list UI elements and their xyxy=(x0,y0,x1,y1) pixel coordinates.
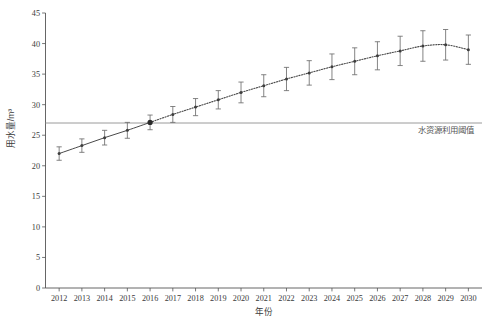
data-point xyxy=(80,144,83,147)
y-tick-label: 25 xyxy=(32,131,40,140)
axes-layer: 0510152025303540452012201320142015201620… xyxy=(32,9,482,303)
y-tick-label: 15 xyxy=(32,192,40,201)
threshold-annotation-label: 水资源利用阈值 xyxy=(418,125,475,135)
x-tick-label: 2024 xyxy=(324,294,340,303)
data-point xyxy=(330,65,333,68)
x-tick-label: 2021 xyxy=(256,294,272,303)
data-point xyxy=(240,91,243,94)
x-tick-label: 2018 xyxy=(187,294,203,303)
y-tick-label: 0 xyxy=(36,284,40,293)
water-usage-forecast-chart: 0510152025303540452012201320142015201620… xyxy=(0,0,491,334)
x-tick-label: 2019 xyxy=(210,294,226,303)
markers-layer xyxy=(58,43,470,155)
y-tick-label: 5 xyxy=(36,253,40,262)
axis-spines xyxy=(46,13,483,288)
data-point xyxy=(171,113,174,116)
y-tick-label: 20 xyxy=(32,162,40,171)
data-point xyxy=(467,48,470,51)
x-tick-label: 2012 xyxy=(51,294,67,303)
data-point xyxy=(308,71,311,74)
y-tick-label: 40 xyxy=(32,40,40,49)
data-point xyxy=(376,54,379,57)
x-tick-label: 2027 xyxy=(392,294,408,303)
series-layer xyxy=(59,45,468,154)
data-point xyxy=(217,98,220,101)
x-tick-label: 2022 xyxy=(278,294,294,303)
x-tick-label: 2025 xyxy=(347,294,363,303)
data-point xyxy=(444,43,447,46)
x-tick-label: 2028 xyxy=(415,294,431,303)
data-point xyxy=(421,45,424,48)
y-tick-label: 35 xyxy=(32,70,40,79)
figure-container: 0510152025303540452012201320142015201620… xyxy=(0,0,491,334)
data-point xyxy=(103,136,106,139)
labels-layer: 水资源利用阈值年份用水量/m³ xyxy=(5,109,475,317)
data-point xyxy=(58,152,61,155)
x-tick-label: 2030 xyxy=(460,294,476,303)
x-tick-label: 2017 xyxy=(165,294,181,303)
y-axis-title: 用水量/m³ xyxy=(5,109,16,149)
y-tick-label: 10 xyxy=(32,223,40,232)
data-point xyxy=(353,60,356,63)
data-point xyxy=(285,78,288,81)
x-axis-title: 年份 xyxy=(255,306,273,317)
data-point xyxy=(262,84,265,87)
data-point xyxy=(126,129,129,132)
y-tick-label: 30 xyxy=(32,101,40,110)
x-tick-label: 2015 xyxy=(119,294,135,303)
x-tick-label: 2013 xyxy=(74,294,90,303)
data-point-highlight xyxy=(147,120,152,125)
x-tick-label: 2026 xyxy=(369,294,385,303)
x-tick-label: 2014 xyxy=(96,294,112,303)
x-tick-label: 2029 xyxy=(437,294,453,303)
y-tick-label: 45 xyxy=(32,9,40,18)
x-tick-label: 2020 xyxy=(233,294,249,303)
data-point xyxy=(194,106,197,109)
x-tick-label: 2016 xyxy=(142,294,158,303)
x-tick-label: 2023 xyxy=(301,294,317,303)
data-point xyxy=(399,49,402,52)
